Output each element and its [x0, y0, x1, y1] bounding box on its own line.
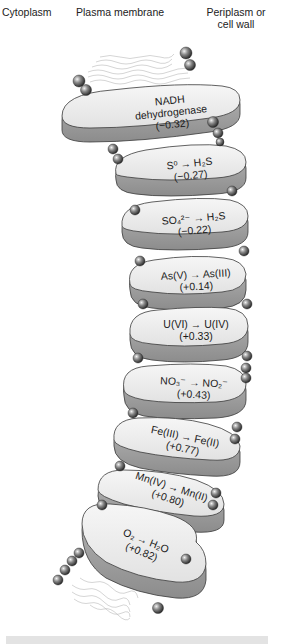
reaction-label: U(VI) → U(IV) — [150, 318, 242, 330]
complex-label-uranium: U(VI) → U(IV) (+0.33) — [150, 318, 242, 342]
complex-label-arsenate: As(V) → As(III) (+0.14) — [149, 266, 242, 295]
potential-value: (+0.33) — [150, 330, 242, 342]
lipid-tails-top — [88, 54, 190, 84]
complex-label-nitrate: NO₃⁻ → NO₂⁻ (+0.43) — [145, 374, 242, 403]
caption-bar — [6, 636, 268, 644]
